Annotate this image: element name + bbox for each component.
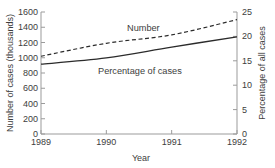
series-label-number: Number [127,23,160,33]
x-axis-title: Year [132,153,150,163]
right-axis-tick-label: 5 [242,105,247,115]
x-axis-tick-label: 1990 [96,137,116,147]
left-axis-tick-label: 600 [23,83,38,93]
left-axis-tick-label: 1600 [18,7,38,17]
line-chart-figure: 0200400600800100012001400160005101520251… [0,0,275,168]
left-axis-tick-label: 200 [23,114,38,124]
x-axis-tick-label: 1991 [162,137,182,147]
x-axis-tick-label: 1989 [31,137,51,147]
left-axis-tick-label: 800 [23,68,38,78]
left-axis-title: Number of cases (thousands) [5,3,15,143]
series-label-percentage: Percentage of cases [98,66,182,76]
right-axis-tick-label: 20 [242,31,252,41]
right-axis-title: Percentage of all cases [257,3,267,143]
left-axis-tick-label: 400 [23,99,38,109]
left-axis-tick-label: 1400 [18,22,38,32]
right-axis-tick-label: 15 [242,56,252,66]
right-axis-tick-label: 10 [242,80,252,90]
left-axis-tick-label: 1000 [18,53,38,63]
left-axis-tick-label: 1200 [18,38,38,48]
x-axis-tick-label: 1992 [227,137,247,147]
right-axis-tick-label: 25 [242,7,252,17]
